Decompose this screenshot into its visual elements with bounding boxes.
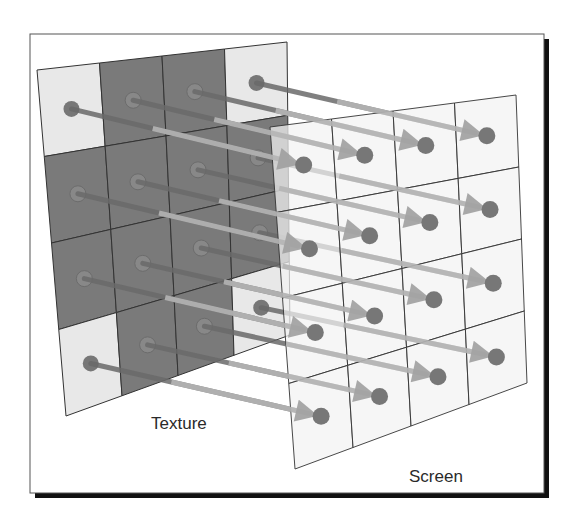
pixel-center-dot <box>429 368 446 385</box>
texture-label: Texture <box>151 414 207 434</box>
pixel-center-dot <box>485 275 502 292</box>
pixel-center-dot <box>313 408 330 425</box>
pixel-center-dot <box>488 348 505 365</box>
texture-mapping-diagram: Texture Screen <box>0 0 575 522</box>
pixel-center-dot <box>307 324 324 341</box>
pixel-center-dot <box>421 214 438 231</box>
pixel-center-dot <box>295 156 312 173</box>
pixel-center-dot <box>371 388 388 405</box>
pixel-center-dot <box>425 291 442 308</box>
pixel-center-dot <box>366 308 383 325</box>
pixel-center-dot <box>361 227 378 244</box>
diagram-canvas <box>0 0 575 522</box>
pixel-center-dot <box>301 240 318 257</box>
pixel-center-dot <box>417 137 434 154</box>
pixel-center-dot <box>478 127 495 144</box>
pixel-center-dot <box>356 147 373 164</box>
pixel-center-dot <box>482 201 499 218</box>
screen-label: Screen <box>409 467 463 487</box>
